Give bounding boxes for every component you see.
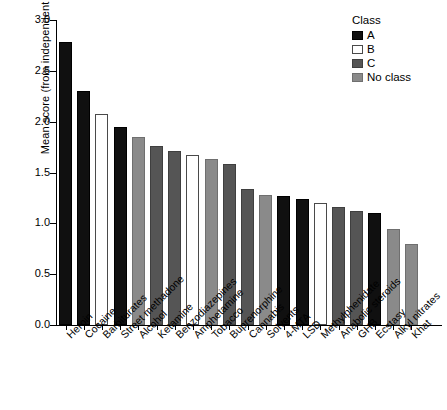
legend: Class ABCNo class (352, 14, 411, 85)
bar-chart: Mean score (from independent experts) 0.… (0, 0, 447, 410)
legend-title: Class (352, 14, 411, 26)
legend-swatch-icon (352, 45, 363, 54)
legend-item: B (352, 43, 411, 56)
y-tick-label: 2.5 (0, 64, 58, 76)
y-tick-label: 1.5 (0, 166, 58, 178)
legend-swatch-icon (352, 31, 363, 40)
bar (241, 189, 254, 325)
legend-item-label: B (367, 44, 375, 55)
y-tick-label: 3.0 (0, 13, 58, 25)
bar (114, 127, 127, 325)
legend-swatch-icon (352, 59, 363, 68)
y-tick-label: 2.0 (0, 115, 58, 127)
legend-item: No class (352, 71, 411, 84)
y-tick-label: 1.0 (0, 216, 58, 228)
legend-swatch-icon (352, 73, 363, 82)
legend-item: C (352, 57, 411, 70)
y-tick-label: 0.5 (0, 267, 58, 279)
bar (77, 91, 90, 325)
legend-item-label: A (367, 30, 375, 41)
legend-item-label: No class (367, 72, 411, 83)
legend-item-label: C (367, 58, 375, 69)
bar (296, 199, 309, 325)
bar (186, 155, 199, 325)
legend-item: A (352, 29, 411, 42)
bar (168, 151, 181, 325)
bar (314, 203, 327, 325)
bar (95, 114, 108, 325)
bar (59, 42, 72, 325)
y-tick-label: 0.0 (0, 318, 58, 330)
